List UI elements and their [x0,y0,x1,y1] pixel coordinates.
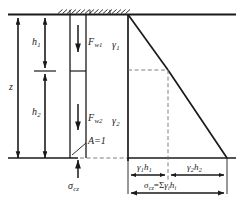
figure-root: z h1 h2 Fw1 γ1 Fw2 γ2 A=1 σcz γ1h1 γ2h2 … [0,0,244,205]
label-segment-gamma2h2: γ2h2 [187,163,202,173]
label-total-stress-formula: σcz=Σγihi [144,181,176,191]
label-layer2-thickness: h2 [32,107,41,119]
label-force-layer1: Fw1 [88,37,102,49]
label-unit-weight-layer2: γ2 [112,116,120,128]
stress-envelope-layer2 [168,70,227,158]
figure-canvas [0,0,244,205]
label-layer1-thickness: h1 [32,37,41,49]
label-segment-gamma1h1: γ1h1 [137,163,152,173]
label-base-stress: σcz [68,181,79,193]
label-unit-area: A=1 [88,136,106,146]
stress-envelope-layer1 [128,15,168,71]
ground-hatching-icon [58,10,130,15]
label-force-layer2: Fw2 [88,113,102,125]
area-leader-line [72,143,86,155]
label-unit-weight-layer1: γ1 [112,40,120,52]
label-total-depth: z [9,82,13,92]
